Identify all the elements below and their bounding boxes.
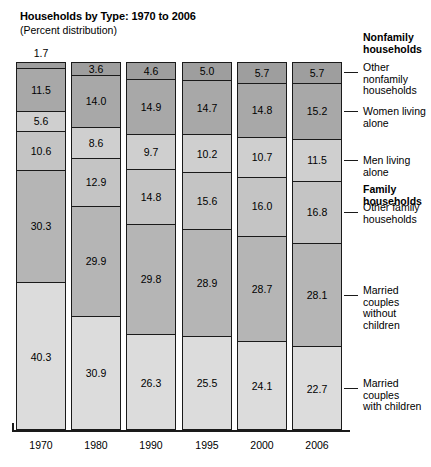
segment-value-label: 10.2 bbox=[197, 149, 217, 160]
segment-value-label: 28.1 bbox=[307, 290, 327, 301]
legend-label-other_nonfamily[interactable]: Other nonfamily households bbox=[363, 62, 431, 97]
segment-value-label: 28.9 bbox=[197, 278, 217, 289]
segment-value-label: 10.7 bbox=[252, 152, 272, 163]
legend-leader-line-men_alone bbox=[344, 160, 358, 161]
segment-value-label: 10.6 bbox=[31, 146, 51, 157]
segment-value-label: 11.5 bbox=[307, 155, 327, 166]
legend-leader-line-women_alone bbox=[344, 111, 358, 112]
legend-leader-line-other_family bbox=[344, 212, 358, 213]
segment-value-label: 26.3 bbox=[141, 378, 161, 389]
legend-header-nonfamily: Nonfamily households bbox=[363, 32, 422, 55]
legend-leader-line-married_with_children bbox=[344, 388, 358, 389]
segment-value-label: 9.7 bbox=[144, 147, 159, 158]
segment-value-label: 14.9 bbox=[141, 102, 161, 113]
segment-value-label: 8.6 bbox=[89, 138, 104, 149]
segment-value-label: 16.0 bbox=[252, 201, 272, 212]
segment-value-label: 30.3 bbox=[31, 221, 51, 232]
segment-value-label: 40.3 bbox=[31, 352, 51, 363]
chart-legend: Nonfamily householdsOther nonfamily hous… bbox=[0, 0, 431, 467]
segment-value-label: 25.5 bbox=[197, 378, 217, 389]
legend-leader-line-married_without_children bbox=[344, 295, 358, 296]
segment-value-label: 22.7 bbox=[307, 384, 327, 395]
legend-label-married_without_children[interactable]: Married couples without children bbox=[363, 285, 431, 331]
segment-value-label: 15.2 bbox=[307, 106, 327, 117]
legend-header-family: Family households bbox=[363, 184, 431, 207]
segment-value-label: 5.7 bbox=[255, 68, 270, 79]
segment-value-label: 3.6 bbox=[89, 64, 104, 75]
legend-label-women_alone[interactable]: Women living alone bbox=[363, 106, 431, 129]
segment-value-label: 12.9 bbox=[86, 177, 106, 188]
segment-value-label: 30.9 bbox=[86, 368, 106, 379]
segment-value-label: 4.6 bbox=[144, 66, 159, 77]
segment-value-label: 5.6 bbox=[34, 116, 49, 127]
segment-value-label: 14.8 bbox=[252, 105, 272, 116]
segment-value-label: 28.7 bbox=[252, 284, 272, 295]
segment-value-label: 29.8 bbox=[141, 274, 161, 285]
segment-value-label: 5.0 bbox=[200, 66, 215, 77]
segment-value-label: 14.7 bbox=[197, 103, 217, 114]
segment-value-label: 14.8 bbox=[141, 192, 161, 203]
segment-value-label: 14.0 bbox=[86, 96, 106, 107]
segment-value-label: 5.7 bbox=[310, 68, 325, 79]
legend-label-married_with_children[interactable]: Married couples with children bbox=[363, 378, 431, 413]
chart-root: Households by Type: 1970 to 2006 (Percen… bbox=[0, 0, 431, 467]
segment-value-label: 15.6 bbox=[197, 196, 217, 207]
segment-value-label: 16.8 bbox=[307, 207, 327, 218]
segment-value-label: 29.9 bbox=[86, 256, 106, 267]
segment-value-label: 24.1 bbox=[252, 381, 272, 392]
legend-label-men_alone[interactable]: Men living alone bbox=[363, 155, 431, 178]
legend-leader-line-other_nonfamily bbox=[344, 72, 358, 73]
segment-value-label: 11.5 bbox=[31, 85, 51, 96]
